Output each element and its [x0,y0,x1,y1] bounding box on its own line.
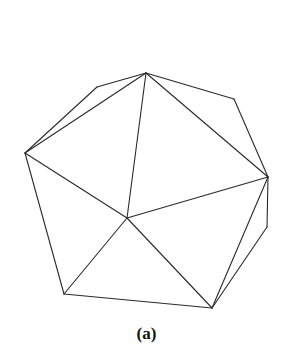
edge-right-bottom_right [212,177,268,308]
edge-bottom_right-bottom_left [64,294,212,308]
edge-top-right [146,73,268,177]
edge-right-center [127,177,268,218]
edge-top-upper_right [146,73,234,99]
edge-lower_right-bottom_right [212,227,267,308]
figure-caption: (a) [0,324,293,344]
edge-upper_right-right [234,99,268,177]
edge-center-bottom_left [64,218,127,294]
edge-top-center [127,73,146,218]
edge-right-lower_right [267,177,268,227]
polygon-edges [25,73,268,308]
edge-left-upper_left [25,87,97,153]
edge-left-top [25,73,146,153]
edge-upper_left-top [97,73,146,87]
edge-center-bottom_right [127,218,212,308]
triangulation-diagram [0,0,293,347]
